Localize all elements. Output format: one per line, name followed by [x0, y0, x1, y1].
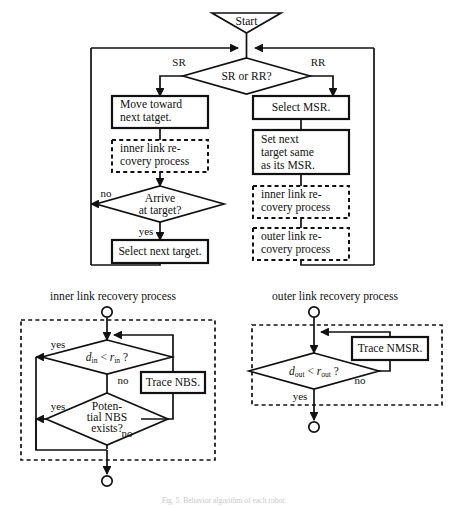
- move-toward-line1: Move toward: [120, 98, 182, 111]
- inner-process-title: inner link recovery process: [50, 290, 176, 303]
- edge-label-inner-yes-2: yes: [51, 400, 66, 412]
- outer-exit-connector: [309, 422, 319, 432]
- inner-left-line2: covery process: [120, 155, 190, 168]
- move-toward-line2: next tatget.: [120, 111, 172, 124]
- outer-right-line2: covery process: [261, 243, 331, 256]
- edge-label-inner-no-1: no: [118, 374, 130, 386]
- outer-process-group: outer link recovery process Trace NMSR. …: [249, 290, 442, 432]
- set-next-line3: as its MSR.: [261, 159, 315, 172]
- flowchart-canvas: Start SR or RR? SR RR Move toward next t…: [0, 0, 449, 508]
- potential-nbs-line3: exists?: [91, 422, 123, 435]
- select-next-target-label: Select next target.: [118, 245, 201, 258]
- edge-label-arrive-yes: yes: [139, 225, 154, 237]
- edge-label-inner-no-2: no: [122, 427, 134, 439]
- edge-label-rr: RR: [311, 56, 326, 68]
- outer-process-title: outer link recovery process: [272, 290, 398, 303]
- set-next-line2: target same: [261, 146, 314, 159]
- figure-caption: Fig. 5. Behavior algorithm of each robot…: [162, 496, 287, 505]
- inner-process-group: inner link recovery process din < rin ? …: [21, 290, 215, 486]
- select-msr-label: Select MSR.: [272, 101, 331, 114]
- edge-label-inner-yes-1: yes: [51, 338, 66, 350]
- edge-rr-branch: [310, 76, 333, 96]
- inner-left-line1: inner link re-: [120, 142, 181, 155]
- inner-exit-connector: [102, 476, 112, 486]
- arrive-line2: at target?: [139, 204, 182, 217]
- edge-label-sr: SR: [172, 56, 186, 68]
- outer-entry-connector: [309, 307, 319, 317]
- main-flow-group: Start SR or RR? SR RR Move toward next t…: [91, 13, 374, 265]
- edge-label-arrive-no: no: [101, 187, 113, 199]
- inner-right-line2: covery process: [261, 201, 331, 214]
- edge-outer-no: [379, 360, 390, 371]
- inner-entry-connector: [102, 307, 112, 317]
- edge-label-outer-no: no: [355, 374, 367, 386]
- edge-sr-branch: [160, 76, 183, 96]
- trace-nbs-label: Trace NBS.: [146, 376, 200, 389]
- flowchart-figure: Start SR or RR? SR RR Move toward next t…: [0, 0, 449, 508]
- decision-sr-or-rr-label: SR or RR?: [221, 70, 271, 83]
- inner-right-line1: inner link re-: [261, 188, 322, 201]
- outer-right-line1: outer link re-: [261, 230, 322, 243]
- trace-nmsr-label: Trace NMSR.: [358, 342, 423, 355]
- edge-label-outer-yes: yes: [293, 390, 308, 402]
- start-label: Start: [236, 15, 259, 28]
- set-next-line1: Set next: [261, 133, 299, 146]
